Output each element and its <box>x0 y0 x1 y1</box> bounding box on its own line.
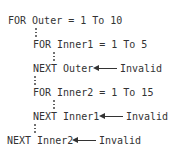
arrow-left-icon <box>99 111 123 122</box>
code-line-next-outer: NEXT Outer <box>33 63 93 74</box>
code-line-for-outer: FOR Outer = 1 To 10 <box>8 15 122 26</box>
invalid-label: Invalid <box>126 111 168 122</box>
code-line-next-inner2: NEXT Inner2 <box>7 135 73 146</box>
invalid-label: Invalid <box>99 135 141 146</box>
invalid-label: Invalid <box>120 63 162 74</box>
ellipsis-dots <box>34 124 36 135</box>
ellipsis-dots <box>53 52 55 63</box>
code-line-next-inner1: NEXT Inner1 <box>33 111 99 122</box>
arrow-left-icon <box>93 63 117 74</box>
arrow-left-icon <box>72 135 96 146</box>
code-line-for-inner1: FOR Inner1 = 1 To 5 <box>33 39 147 50</box>
ellipsis-dots <box>35 28 37 39</box>
ellipsis-dots <box>53 100 55 111</box>
ellipsis-dots <box>34 76 36 87</box>
code-line-for-inner2: FOR Inner2 = 1 To 15 <box>33 87 153 98</box>
